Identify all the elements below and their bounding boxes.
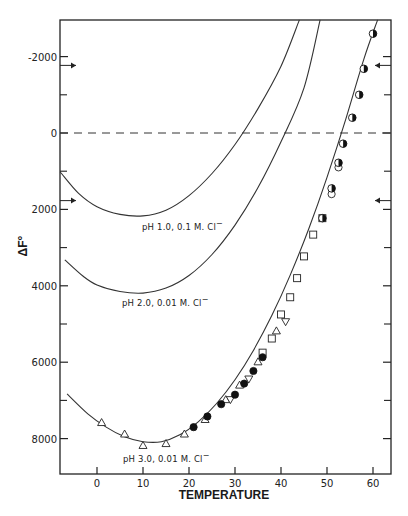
square-marker (287, 294, 294, 301)
filled-circle-marker (231, 391, 238, 398)
y-tick-label: -2000 (28, 52, 57, 63)
arrowhead-icon (375, 198, 380, 204)
y-axis-ticks: -200002000400060008000 (28, 52, 391, 445)
chart-canvas: -200002000400060008000 0102030405060 pH … (0, 0, 408, 516)
arrowhead-icon (375, 62, 380, 68)
square-marker (294, 275, 301, 282)
x-tick-label: 0 (94, 478, 100, 489)
filled-circle-marker (241, 380, 248, 387)
filled-circle-marker (218, 401, 225, 408)
y-tick-label: 6000 (32, 357, 57, 368)
x-axis-title: TEMPERATURE (179, 488, 269, 502)
curve-label-ph1: pH 1.0, 0.1 M. Cl− (142, 219, 223, 232)
data-points (98, 30, 377, 449)
square-marker (310, 231, 317, 238)
triangle-marker (121, 430, 129, 437)
arrowhead-icon (71, 198, 76, 204)
y-tick-label: 2000 (32, 204, 57, 215)
curve-label-ph2: pH 2.0, 0.01 M. Cl− (122, 295, 209, 308)
triangle-marker (272, 327, 280, 334)
square-marker (301, 253, 308, 260)
x-tick-label: 40 (275, 478, 288, 489)
square-marker (278, 311, 285, 318)
y-axis-title: ΔF° (16, 235, 30, 256)
y-tick-label: 8000 (32, 434, 57, 445)
arrowhead-icon (71, 62, 76, 68)
plot-frame (60, 20, 391, 474)
x-tick-label: 10 (137, 478, 150, 489)
curve-ph2 (65, 20, 320, 293)
triangle-marker (162, 440, 170, 447)
filled-circle-marker (250, 367, 257, 374)
inverted-triangle-marker (282, 319, 290, 326)
curves (60, 20, 377, 443)
x-tick-label: 50 (321, 478, 334, 489)
filled-circle-marker (259, 354, 266, 361)
curve-ph1 (60, 20, 299, 216)
filled-circle-marker (204, 413, 211, 420)
curve-ph3 (67, 20, 378, 443)
curve-label-ph3: pH 3.0, 0.01 M. Cl− (123, 451, 210, 464)
square-marker (268, 335, 275, 342)
filled-circle-marker (190, 424, 197, 431)
x-axis-ticks: 0102030405060 (94, 467, 380, 489)
y-tick-label: 0 (51, 128, 57, 139)
y-tick-label: 4000 (32, 281, 57, 292)
x-tick-label: 60 (367, 478, 380, 489)
